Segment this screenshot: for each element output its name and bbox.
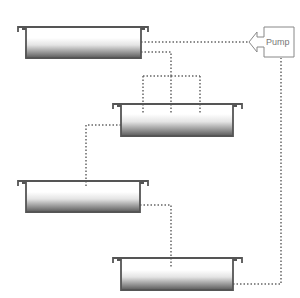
tank-1 [18,27,148,58]
tank-diagram: Pump [0,0,300,298]
tank-2 [113,104,242,136]
pump-label: Pump [266,37,290,47]
pump: Pump [249,27,294,57]
pipe-tank4-pump [233,58,281,284]
pipe-tank2-tank3 [86,125,121,186]
pipe-manifold-tank2 [143,76,200,115]
pipe-tank1-manifold [141,52,171,76]
tank-4 [113,258,242,290]
pipes [86,42,281,284]
tank-3 [18,181,148,212]
